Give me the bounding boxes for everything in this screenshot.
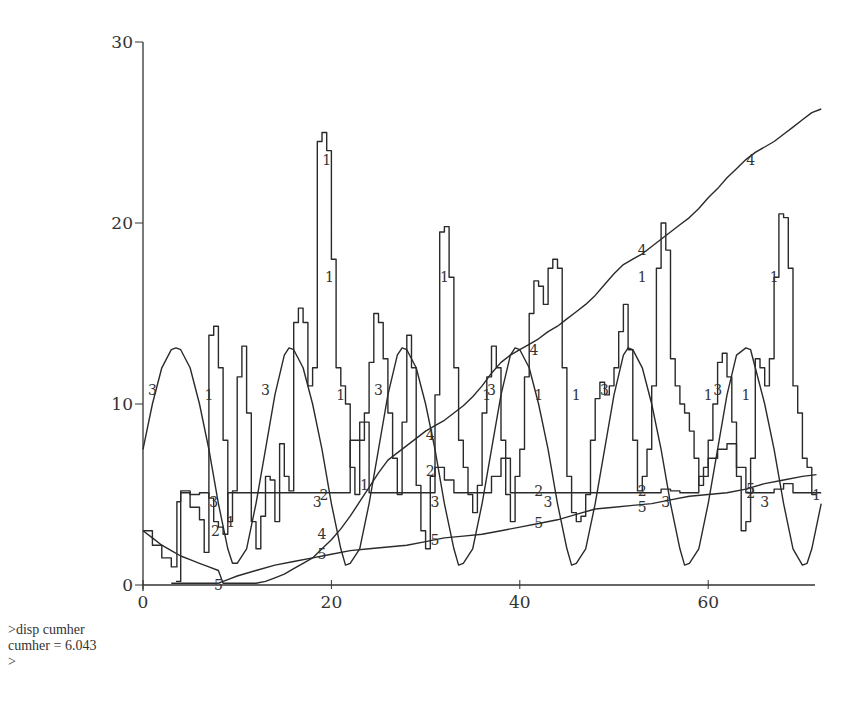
console-line-command: >disp cumher <box>8 622 96 638</box>
series-5-marker: 5 <box>214 577 223 593</box>
series-3-marker: 3 <box>544 494 553 510</box>
console-prompt[interactable]: > <box>8 654 96 670</box>
series-3-marker: 3 <box>487 382 496 398</box>
series-3-marker: 3 <box>661 494 670 510</box>
series-4-marker: 4 <box>318 526 327 542</box>
series-4-marker: 4 <box>638 242 647 258</box>
series-2-marker: 2 <box>534 483 543 499</box>
series-3-marker: 3 <box>760 494 769 510</box>
series-markers: 1111111111111112222223333333333334444455… <box>148 152 821 593</box>
x-tick-label: 20 <box>321 592 343 612</box>
series-2-marker: 2 <box>211 523 220 539</box>
series-1-marker: 1 <box>741 387 750 403</box>
series-1-marker: 1 <box>226 514 235 530</box>
series-1-marker: 1 <box>704 387 713 403</box>
series-5-marker: 5 <box>431 532 440 548</box>
series-lines <box>143 109 821 583</box>
x-tick-label: 40 <box>509 592 531 612</box>
series-1-marker: 1 <box>204 387 213 403</box>
series-1-marker: 1 <box>572 387 581 403</box>
series-1-marker: 1 <box>770 269 779 285</box>
series-5-marker: 5 <box>534 515 543 531</box>
x-tick-label: 60 <box>697 592 719 612</box>
series-2-line <box>176 422 821 581</box>
series-5-line <box>171 475 816 584</box>
series-3-marker: 3 <box>313 494 322 510</box>
y-tick-label: 10 <box>111 394 133 414</box>
series-4-marker: 4 <box>426 427 435 443</box>
series-1-marker: 1 <box>336 387 345 403</box>
y-tick-label: 30 <box>111 32 133 52</box>
series-1-marker: 1 <box>322 152 331 168</box>
series-3-marker: 3 <box>209 494 218 510</box>
line-chart: 02040600102030 1111111111111112222223333… <box>0 0 861 620</box>
series-3-marker: 3 <box>600 382 609 398</box>
command-console[interactable]: >disp cumher cumher = 6.043 > <box>8 622 96 670</box>
series-4-marker: 4 <box>529 342 538 358</box>
series-2-marker: 2 <box>426 463 435 479</box>
series-3-marker: 3 <box>431 494 440 510</box>
series-1-marker: 1 <box>360 477 369 493</box>
series-3-marker: 3 <box>713 382 722 398</box>
series-1-marker: 1 <box>534 387 543 403</box>
series-1-marker: 1 <box>812 487 821 503</box>
series-5-marker: 5 <box>638 499 647 515</box>
series-1-marker: 1 <box>638 269 647 285</box>
series-2-marker: 2 <box>638 483 647 499</box>
series-3-marker: 3 <box>374 382 383 398</box>
series-1-marker: 1 <box>440 269 449 285</box>
series-1-line <box>143 133 817 567</box>
console-line-output: cumher = 6.043 <box>8 638 96 654</box>
series-1-marker: 1 <box>325 269 334 285</box>
x-tick-label: 0 <box>138 592 149 612</box>
series-5-marker: 5 <box>746 481 755 497</box>
series-3-marker: 3 <box>148 382 157 398</box>
y-tick-label: 0 <box>122 575 133 595</box>
series-4-marker: 4 <box>746 152 755 168</box>
series-3-marker: 3 <box>261 382 270 398</box>
y-tick-label: 20 <box>111 213 133 233</box>
series-5-marker: 5 <box>318 546 327 562</box>
